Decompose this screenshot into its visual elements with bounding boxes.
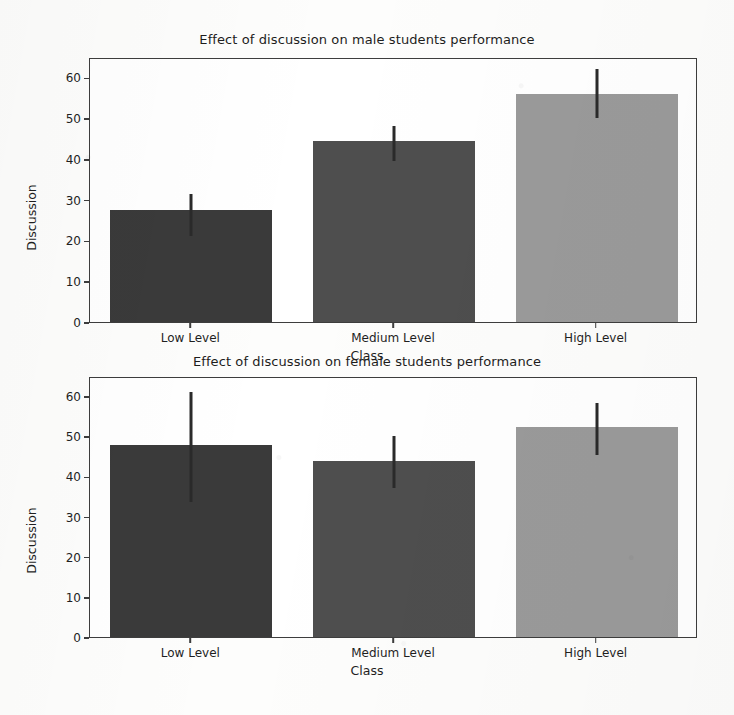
y-tick-label: 20 (43, 234, 81, 248)
y-tick-mark (84, 396, 89, 398)
chart-title-male: Effect of discussion on male students pe… (0, 32, 734, 47)
x-tick-label: High Level (564, 331, 627, 345)
x-axis-label-female: Class (0, 663, 734, 678)
y-tick-mark (84, 241, 89, 243)
error-bar-medium-level (393, 126, 396, 161)
x-tick-mark (392, 323, 394, 328)
error-bar-medium-level (393, 436, 396, 488)
x-tick-mark (595, 638, 597, 643)
x-tick-mark (190, 323, 192, 328)
chart-title-female: Effect of discussion on female students … (0, 354, 734, 369)
y-tick-label: 10 (43, 275, 81, 289)
x-tick-label: Medium Level (351, 646, 434, 660)
y-tick-label: 10 (43, 591, 81, 605)
y-tick-mark (84, 118, 89, 120)
y-tick-mark (84, 517, 89, 519)
bar-high-level (516, 94, 678, 322)
x-tick-label: High Level (564, 646, 627, 660)
subplot-male-students: Effect of discussion on male students pe… (0, 30, 734, 360)
y-tick-mark (84, 637, 89, 639)
x-tick-label: Low Level (161, 331, 220, 345)
y-tick-mark (84, 200, 89, 202)
y-tick-label: 0 (43, 631, 81, 645)
error-bar-low-level (190, 392, 193, 502)
y-tick-label: 50 (43, 112, 81, 126)
y-tick-mark (84, 557, 89, 559)
y-tick-mark (84, 477, 89, 479)
y-tick-label: 60 (43, 71, 81, 85)
x-tick-mark (595, 323, 597, 328)
y-tick-mark (84, 597, 89, 599)
y-tick-label: 40 (43, 153, 81, 167)
y-tick-mark (84, 159, 89, 161)
y-tick-label: 30 (43, 194, 81, 208)
plot-area-male (89, 58, 697, 323)
subplot-female-students: Effect of discussion on female students … (0, 348, 734, 688)
y-tick-mark (84, 322, 89, 324)
x-tick-label: Medium Level (351, 331, 434, 345)
figure-canvas: Effect of discussion on male students pe… (0, 0, 734, 715)
x-tick-mark (190, 638, 192, 643)
error-bar-high-level (595, 69, 598, 118)
y-tick-label: 60 (43, 390, 81, 404)
y-tick-mark (84, 78, 89, 80)
error-bar-low-level (190, 194, 193, 237)
y-axis-label-female: Discussion (24, 496, 39, 586)
y-tick-label: 20 (43, 551, 81, 565)
y-tick-label: 50 (43, 430, 81, 444)
x-tick-mark (392, 638, 394, 643)
y-tick-label: 30 (43, 511, 81, 525)
x-tick-label: Low Level (161, 646, 220, 660)
error-bar-high-level (595, 403, 598, 455)
y-tick-mark (84, 436, 89, 438)
y-axis-label-male: Discussion (24, 173, 39, 263)
plot-area-female (89, 377, 697, 638)
y-tick-label: 40 (43, 470, 81, 484)
bar-high-level (516, 427, 678, 637)
y-tick-label: 0 (43, 316, 81, 330)
y-tick-mark (84, 281, 89, 283)
bar-medium-level (313, 141, 475, 322)
